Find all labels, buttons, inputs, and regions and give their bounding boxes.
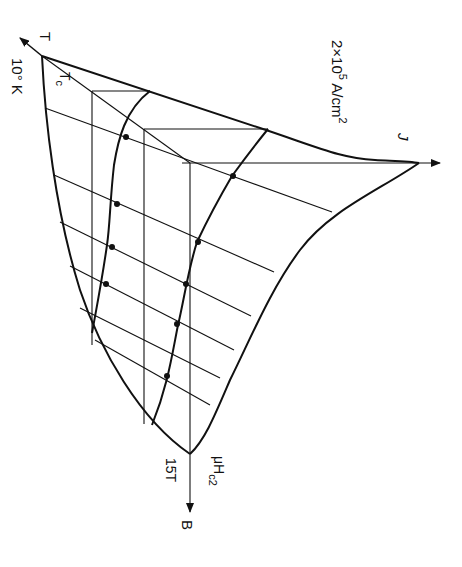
- grid-line-4: [70, 266, 234, 350]
- j-axis-label: J: [395, 132, 412, 141]
- b-max-label: 15T: [163, 458, 179, 483]
- grid-line-1b: [232, 176, 332, 212]
- inner-dot-4: [103, 281, 109, 287]
- b-axis-label: B: [179, 520, 196, 530]
- outer-dot-1: [230, 173, 236, 179]
- inner-dot-1: [123, 134, 129, 140]
- grid-line-1: [45, 108, 232, 176]
- outer-dot-4: [174, 321, 180, 327]
- inner-dot-3: [109, 244, 115, 250]
- outer-critical-curve: [152, 129, 268, 425]
- tc-label: Tc: [54, 72, 73, 87]
- grid-line-3: [60, 222, 251, 316]
- critical-surface-diagram: T 10° K Tc 2×105 A/cm2 J 15T μHc2 B: [0, 0, 462, 567]
- outer-dot-3: [183, 281, 189, 287]
- j-max-label: 2×105 A/cm2: [329, 40, 349, 124]
- surface-edge-t-b: [42, 56, 190, 454]
- outer-dot-5: [164, 373, 170, 379]
- inner-dot-2: [114, 201, 120, 207]
- t-max-label: 10° K: [9, 58, 26, 95]
- tc-subscript: c: [54, 81, 66, 87]
- surface-edge-j-b: [190, 163, 419, 454]
- surface-edge-t-j: [42, 56, 419, 163]
- grid-line-2: [54, 175, 274, 272]
- t-axis-label: T: [37, 32, 54, 41]
- outer-dot-2: [195, 239, 201, 245]
- hc2-subscript: c2: [207, 474, 219, 486]
- grid-line-6: [95, 340, 210, 405]
- hc2-label: μHc2: [207, 456, 227, 486]
